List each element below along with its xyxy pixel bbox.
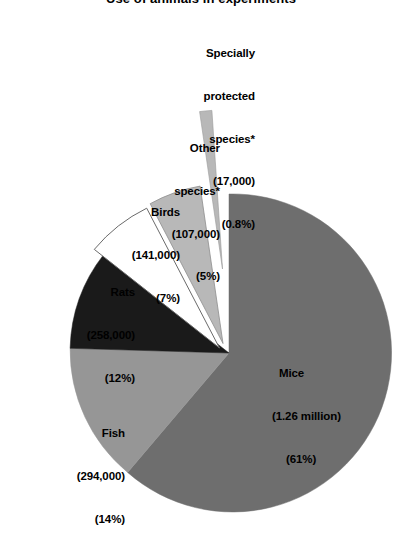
slice-label-fish-count: (294,000) — [0, 469, 125, 483]
slice-label-mice-percent: (61%) — [272, 452, 397, 466]
slice-label-rats: Rats (258,000) (12%) — [10, 257, 135, 413]
slice-label-mice: Mice (1.26 million) (61%) — [272, 338, 397, 494]
slice-label-birds-name: Birds — [55, 205, 180, 219]
slice-label-rats-count: (258,000) — [10, 328, 135, 342]
slice-label-rats-percent: (12%) — [10, 371, 135, 385]
slice-label-specially-protected-line2: protected — [130, 89, 255, 103]
slice-label-specially-protected-line1: Specially — [130, 46, 255, 60]
pie-chart: Use of animals in experiments Specially … — [0, 0, 402, 540]
slice-label-mice-count: (1.26 million) — [272, 409, 397, 423]
slice-label-fish-percent: (14%) — [0, 512, 125, 526]
slice-label-other-species-line1: Other — [95, 141, 220, 155]
slice-label-fish-name: Fish — [0, 426, 125, 440]
slice-label-fish: Fish (294,000) (14%) — [0, 398, 125, 540]
slice-label-mice-name: Mice — [272, 366, 397, 380]
slice-label-rats-name: Rats — [10, 285, 135, 299]
